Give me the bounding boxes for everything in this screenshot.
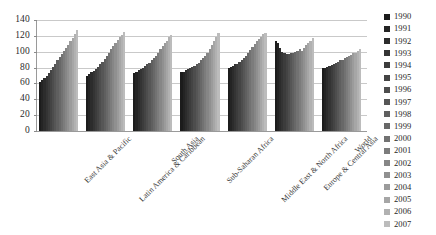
legend-label: 1993 xyxy=(394,49,411,58)
legend-label: 1990 xyxy=(394,12,411,21)
bar xyxy=(123,32,125,131)
y-axis-tick-label: 120 xyxy=(15,31,30,41)
bar xyxy=(170,35,172,131)
bar-group xyxy=(226,20,273,131)
legend-label: 1991 xyxy=(394,24,411,33)
legend-swatch-icon xyxy=(384,26,390,32)
y-axis-tick-label: 80 xyxy=(20,63,30,73)
legend-item[interactable]: 1995 xyxy=(384,72,411,83)
y-axis-tick-label: 140 xyxy=(15,15,30,25)
legend-item[interactable]: 2002 xyxy=(384,157,411,168)
legend-swatch-icon xyxy=(384,99,390,105)
legend-item[interactable]: 2005 xyxy=(384,194,411,205)
legend-label: 1999 xyxy=(394,122,411,131)
legend-item[interactable]: 1996 xyxy=(384,84,411,95)
legend-swatch-icon xyxy=(384,148,390,154)
bar-groups xyxy=(37,20,367,131)
legend-label: 1996 xyxy=(394,85,411,94)
category-label: Europe & Central Asia xyxy=(322,135,379,192)
legend-item[interactable]: 2004 xyxy=(384,182,411,193)
bar-group xyxy=(131,20,178,131)
legend-label: 2000 xyxy=(394,134,411,143)
plot-area xyxy=(36,20,367,132)
y-axis-labels: 140120100806040200 xyxy=(0,14,30,132)
legend-item[interactable]: 1992 xyxy=(384,35,411,46)
legend-item[interactable]: 1993 xyxy=(384,48,411,59)
legend-swatch-icon xyxy=(384,209,390,215)
y-axis-tick-label: 0 xyxy=(25,126,30,136)
bar-group xyxy=(178,20,225,131)
legend-swatch-icon xyxy=(384,38,390,44)
legend-item[interactable]: 1999 xyxy=(384,121,411,132)
legend-item[interactable]: 1997 xyxy=(384,96,411,107)
legend-label: 2007 xyxy=(394,220,411,229)
bar-group xyxy=(37,20,84,131)
legend-swatch-icon xyxy=(384,50,390,56)
bar-chart: 140120100806040200 East Asia & PacificLa… xyxy=(0,0,436,235)
legend-label: 2003 xyxy=(394,171,411,180)
category-label: Latin America & Caribbean xyxy=(138,135,207,204)
legend-label: 1998 xyxy=(394,110,411,119)
legend-swatch-icon xyxy=(384,172,390,178)
plot-wrapper: 140120100806040200 East Asia & PacificLa… xyxy=(0,0,372,235)
bar-group xyxy=(84,20,131,131)
y-axis-tick-label: 40 xyxy=(20,95,30,105)
legend-swatch-icon xyxy=(384,14,390,20)
category-axis-labels: East Asia & PacificLatin America & Carib… xyxy=(36,131,366,235)
bar xyxy=(217,33,219,131)
legend-label: 2001 xyxy=(394,146,411,155)
category-label: Sub-Saharan Africa xyxy=(225,135,275,185)
legend-label: 1995 xyxy=(394,73,411,82)
legend-item[interactable]: 1994 xyxy=(384,60,411,71)
legend-item[interactable]: 2001 xyxy=(384,145,411,156)
bar-group xyxy=(273,20,320,131)
legend-swatch-icon xyxy=(384,136,390,142)
legend-swatch-icon xyxy=(384,184,390,190)
legend-item[interactable]: 2007 xyxy=(384,218,411,229)
legend-label: 1992 xyxy=(394,37,411,46)
y-axis-tick-label: 100 xyxy=(15,47,30,57)
legend-label: 2006 xyxy=(394,207,411,216)
legend-label: 2004 xyxy=(394,183,411,192)
legend: 1990199119921993199419951996199719981999… xyxy=(384,11,436,235)
y-axis-tick-label: 60 xyxy=(20,79,30,89)
bar xyxy=(359,49,361,131)
legend-swatch-icon xyxy=(384,123,390,129)
bar-group xyxy=(320,20,367,131)
legend-label: 2002 xyxy=(394,159,411,168)
legend-item[interactable]: 2003 xyxy=(384,170,411,181)
bar xyxy=(76,30,78,131)
legend-swatch-icon xyxy=(384,111,390,117)
legend-item[interactable]: 2000 xyxy=(384,133,411,144)
legend-label: 1994 xyxy=(394,61,411,70)
legend-swatch-icon xyxy=(384,221,390,227)
category-label: East Asia & Pacific xyxy=(84,135,134,185)
legend-item[interactable]: 1990 xyxy=(384,11,411,22)
legend-item[interactable]: 1991 xyxy=(384,23,411,34)
legend-swatch-icon xyxy=(384,160,390,166)
y-axis-tick-label: 20 xyxy=(20,110,30,120)
legend-swatch-icon xyxy=(384,197,390,203)
legend-item[interactable]: 1998 xyxy=(384,109,411,120)
legend-item[interactable]: 2006 xyxy=(384,206,411,217)
bar xyxy=(312,38,314,131)
legend-label: 2005 xyxy=(394,195,411,204)
legend-swatch-icon xyxy=(384,62,390,68)
legend-swatch-icon xyxy=(384,87,390,93)
bar xyxy=(264,33,266,131)
legend-label: 1997 xyxy=(394,98,411,107)
legend-swatch-icon xyxy=(384,75,390,81)
